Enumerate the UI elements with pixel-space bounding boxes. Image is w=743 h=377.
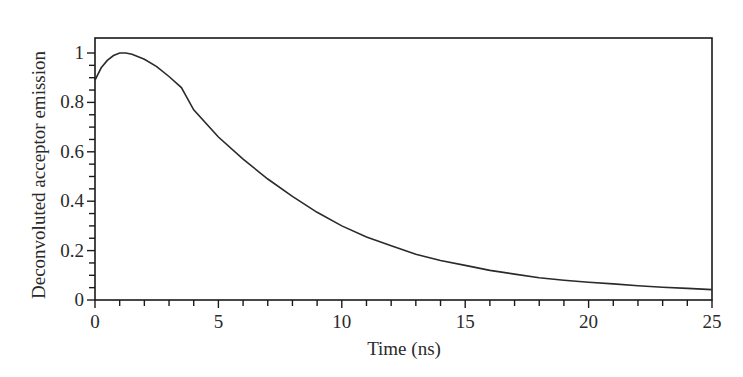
y-tick-label: 0.8	[60, 91, 84, 112]
x-tick-label: 10	[332, 311, 351, 332]
plot-frame	[95, 38, 712, 300]
x-axis-ticks	[95, 300, 712, 308]
y-tick-label: 1	[75, 42, 85, 63]
x-axis-tick-labels: 0510152025	[90, 311, 721, 332]
x-tick-label: 0	[90, 311, 100, 332]
x-tick-label: 20	[579, 311, 598, 332]
x-tick-label: 15	[456, 311, 475, 332]
x-tick-label: 5	[214, 311, 224, 332]
y-tick-label: 0.6	[60, 141, 84, 162]
y-axis-title: Deconvoluted acceptor emission	[28, 51, 49, 299]
plot-border	[95, 38, 712, 300]
y-axis-tick-labels: 00.20.40.60.81	[60, 42, 84, 310]
x-tick-label: 25	[703, 311, 722, 332]
y-axis-ticks	[87, 53, 95, 300]
emission-curve	[95, 53, 712, 290]
x-axis-title: Time (ns)	[367, 338, 441, 360]
chart: 0510152025 00.20.40.60.81 Time (ns) Deco…	[0, 0, 743, 377]
y-tick-label: 0.2	[60, 240, 84, 261]
y-tick-label: 0.4	[60, 190, 84, 211]
y-tick-label: 0	[75, 289, 85, 310]
